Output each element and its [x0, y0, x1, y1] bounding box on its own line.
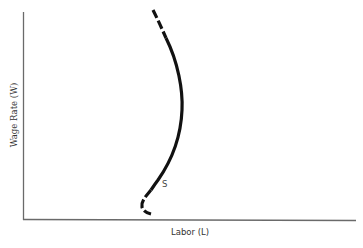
x-axis: [23, 220, 356, 221]
chart-canvas: [0, 0, 363, 248]
supply-curve-bottom-dashed: [142, 190, 151, 214]
supply-curve-top-dashed: [153, 10, 166, 38]
y-axis-label: Wage Rate (W): [9, 83, 19, 147]
supply-curve: [151, 38, 182, 190]
x-axis-label: Labor (L): [0, 227, 363, 237]
curve-label-s: S: [162, 179, 167, 189]
